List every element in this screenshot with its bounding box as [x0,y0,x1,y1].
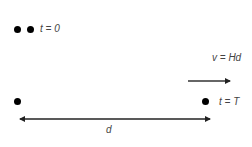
arrows-layer [0,0,252,147]
